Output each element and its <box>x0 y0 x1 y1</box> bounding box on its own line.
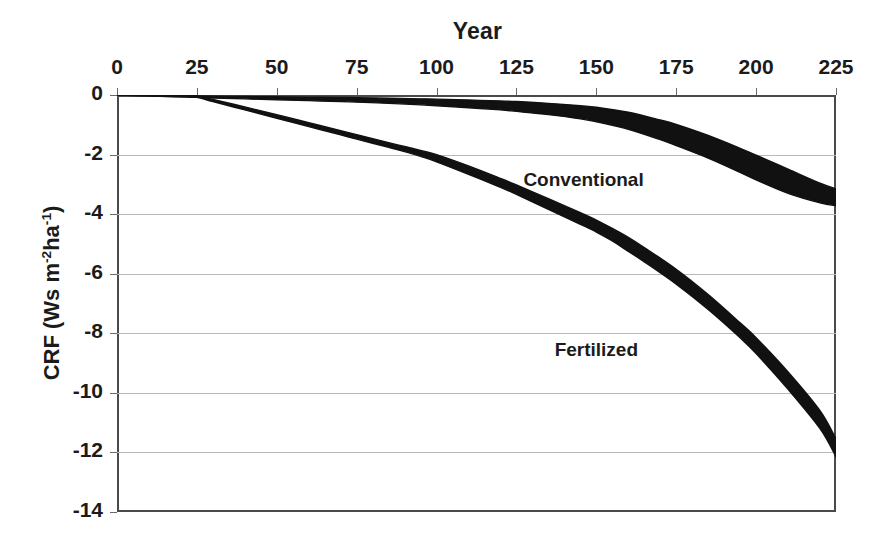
y-tick <box>110 214 117 215</box>
x-tick <box>357 88 358 95</box>
x-tick-label: 225 <box>801 55 871 79</box>
x-tick-label: 100 <box>402 55 472 79</box>
y-tick-label: -2 <box>39 141 103 165</box>
x-tick-label: 75 <box>322 55 392 79</box>
chart-figure: Year CRF (Ws m-2ha-1) 025507510012515017… <box>0 0 883 539</box>
y-tick <box>110 95 117 96</box>
y-tick-label: -14 <box>39 498 103 522</box>
x-tick-label: 125 <box>481 55 551 79</box>
series-label-fertilized: Fertilized <box>555 339 638 361</box>
x-tick-label: 0 <box>82 55 152 79</box>
series-label-conventional: Conventional <box>523 169 643 191</box>
x-tick <box>277 88 278 95</box>
chart-title-text: Year <box>453 18 502 45</box>
y-tick-label: -12 <box>39 438 103 462</box>
curves-svg <box>117 95 836 512</box>
x-tick <box>596 88 597 95</box>
y-tick-label: -4 <box>39 200 103 224</box>
x-tick <box>756 88 757 95</box>
series-band-conventional <box>117 95 836 206</box>
x-tick <box>516 88 517 95</box>
y-tick-label: -6 <box>39 260 103 284</box>
y-tick <box>110 155 117 156</box>
x-tick-label: 25 <box>162 55 232 79</box>
x-tick-label: 50 <box>242 55 312 79</box>
x-tick <box>117 88 118 95</box>
plot-area: 0255075100125150175200225 0-2-4-6-8-10-1… <box>117 95 836 512</box>
y-tick <box>110 452 117 453</box>
x-tick <box>197 88 198 95</box>
y-tick-label: -8 <box>39 319 103 343</box>
y-tick <box>110 333 117 334</box>
y-tick <box>110 274 117 275</box>
y-tick-label: -10 <box>39 379 103 403</box>
y-tick-label: 0 <box>39 81 103 105</box>
x-tick <box>437 88 438 95</box>
y-tick <box>110 393 117 394</box>
x-tick-label: 175 <box>641 55 711 79</box>
y-axis-title-mid: ha <box>39 225 64 251</box>
y-tick <box>110 512 117 513</box>
x-tick <box>676 88 677 95</box>
chart-title: Year <box>0 18 883 45</box>
x-tick-label: 200 <box>721 55 791 79</box>
data-curves <box>117 95 836 512</box>
x-tick <box>836 88 837 95</box>
x-tick-label: 150 <box>561 55 631 79</box>
